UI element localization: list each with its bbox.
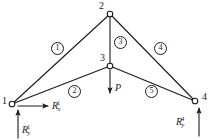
force-superscript: 1 xyxy=(27,123,30,130)
member-5-circle: 5 xyxy=(145,85,158,98)
truss-diagram: 123412345PRx1Ry1Ry4 xyxy=(0,0,216,140)
force-subscript: y xyxy=(28,129,31,136)
force-subscript: x xyxy=(58,105,61,112)
loads-layer xyxy=(18,70,199,138)
node-2-marker xyxy=(107,11,113,17)
node-1-marker xyxy=(9,101,15,107)
member-4-circle: 4 xyxy=(154,42,167,55)
member-4-label: 4 xyxy=(154,42,167,55)
reaction-x-node1-label: Rx1 xyxy=(52,100,60,113)
node-4-marker xyxy=(192,98,198,104)
member-5-label: 5 xyxy=(145,85,158,98)
force-subscript: y xyxy=(182,121,185,128)
node-1-label: 1 xyxy=(2,96,7,106)
applied-load-label: P xyxy=(115,83,121,93)
force-superscript: 4 xyxy=(181,115,184,122)
reaction-y-node1-label: Ry1 xyxy=(22,124,30,137)
member-2-label: 2 xyxy=(68,85,81,98)
reaction-y-node4-label: Ry4 xyxy=(176,116,184,129)
node-2-label: 2 xyxy=(99,1,104,11)
member-1-circle: 1 xyxy=(51,42,64,55)
force-superscript: 1 xyxy=(57,99,60,106)
member-1 xyxy=(12,14,110,104)
member-1-label: 1 xyxy=(51,42,64,55)
member-2 xyxy=(12,66,110,104)
force-symbol: P xyxy=(115,82,121,93)
member-3-circle: 3 xyxy=(114,36,127,49)
member-2-circle: 2 xyxy=(68,85,81,98)
node-3-marker xyxy=(107,63,113,69)
node-4-label: 4 xyxy=(202,92,207,102)
node-3-label: 3 xyxy=(100,53,105,63)
member-3-label: 3 xyxy=(114,36,127,49)
